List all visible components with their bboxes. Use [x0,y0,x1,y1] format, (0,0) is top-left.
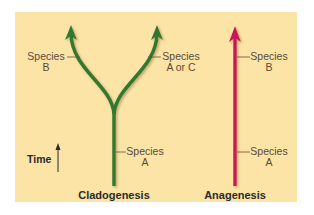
cladogenesis-left-branch [71,34,114,114]
label-species-a-cladogenesis: Species A [126,146,164,168]
label-line: B [26,62,66,73]
cladogenesis-title: Cladogenesis [78,189,150,201]
label-species-a-anagenesis: Species A [250,146,288,168]
label-species-a-or-c: Species A or C [161,51,201,73]
label-line: B [250,62,288,73]
leader-lines [67,57,250,152]
label-line: A [126,157,164,168]
time-arrow-icon [56,143,61,172]
label-species-b-anagenesis: Species B [250,51,288,73]
label-species-b-cladogenesis: Species B [26,51,66,73]
label-line: A or C [161,62,201,73]
label-line: A [250,157,288,168]
anagenesis-lineage [229,26,241,186]
speciation-diagram [0,0,314,215]
cladogenesis-right-branch [114,34,157,114]
time-label: Time [27,153,51,165]
anagenesis-title: Anagenesis [204,189,266,201]
